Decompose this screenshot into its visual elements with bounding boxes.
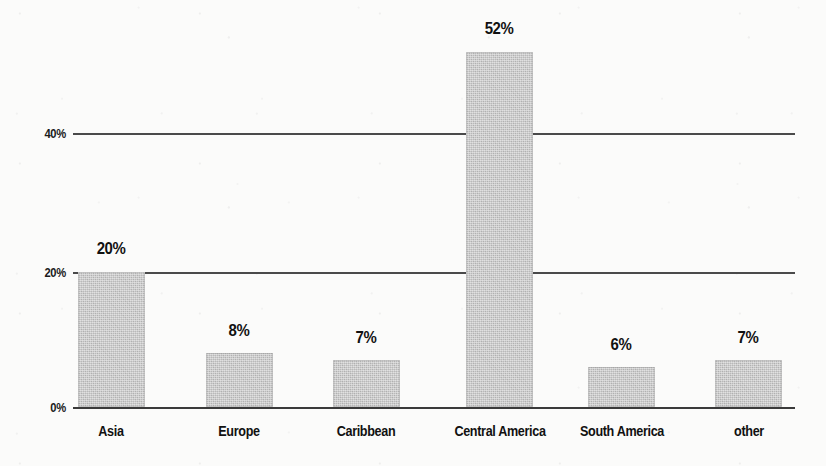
bar-south-america[interactable] xyxy=(588,367,655,407)
category-label-asia: Asia xyxy=(73,422,149,439)
bar-central-america[interactable] xyxy=(466,52,533,407)
bar-value-central-america: 52% xyxy=(464,19,534,39)
chart-page: 40% 20% 0% 20% Asia 8% Europe 7% Caribbe… xyxy=(0,0,826,466)
bar-chart-plot-area: 40% 20% 0% 20% Asia 8% Europe 7% Caribbe… xyxy=(0,0,826,466)
gridline-40 xyxy=(73,133,795,135)
bar-value-asia: 20% xyxy=(76,239,146,259)
bar-value-south-america: 6% xyxy=(586,335,656,355)
bar-europe[interactable] xyxy=(206,353,273,407)
y-tick-label-40: 40% xyxy=(14,126,66,141)
gridline-20 xyxy=(73,272,795,274)
category-label-other: other xyxy=(711,422,787,439)
category-label-central-america: Central America xyxy=(436,422,564,439)
category-label-europe: Europe xyxy=(201,422,277,439)
y-tick-label-0: 0% xyxy=(14,400,66,415)
bar-asia[interactable] xyxy=(78,272,145,407)
y-tick-label-20: 20% xyxy=(14,265,66,280)
bar-value-europe: 8% xyxy=(204,321,274,341)
x-axis-baseline xyxy=(73,407,795,409)
bar-other[interactable] xyxy=(715,360,782,407)
bar-caribbean[interactable] xyxy=(333,360,400,407)
category-label-south-america: South America xyxy=(562,422,683,439)
bar-value-caribbean: 7% xyxy=(331,328,401,348)
bar-value-other: 7% xyxy=(713,328,783,348)
category-label-caribbean: Caribbean xyxy=(316,422,417,439)
